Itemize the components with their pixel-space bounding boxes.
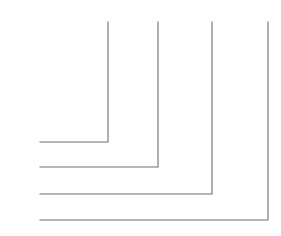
schematic-canvas xyxy=(0,0,281,236)
column-bus-d5 xyxy=(40,22,158,167)
wire-layer xyxy=(40,22,268,220)
column-bus-d6 xyxy=(40,22,212,194)
column-bus-d7 xyxy=(40,22,268,220)
column-bus-d4 xyxy=(40,22,108,142)
keypad-matrix-diagram xyxy=(0,0,281,236)
